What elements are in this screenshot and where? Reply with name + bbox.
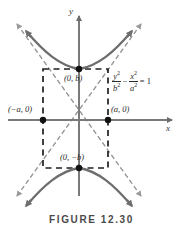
equation-den-b: b2 — [112, 82, 121, 93]
y-axis-label: y — [69, 7, 73, 16]
upper-branch-arrow-right — [127, 31, 132, 37]
hyperbola-equation: y2 b2 − x2 a2 = 1 — [112, 70, 152, 93]
equation-minus-operator: − — [123, 77, 128, 86]
label-vertex-bottom: (0, −b) — [60, 153, 84, 162]
hyperbola-plot: y x (0, b) (0, −b) (−a, 0) (a, 0) y2 b2 … — [0, 0, 183, 210]
label-box-right: (a, 0) — [111, 105, 129, 114]
point-vertex-top — [76, 66, 82, 72]
label-vertex-top: (0, b) — [64, 74, 82, 83]
equation-fraction-x: x2 a2 — [129, 70, 138, 93]
figure-container: y x (0, b) (0, −b) (−a, 0) (a, 0) y2 b2 … — [0, 0, 183, 237]
equation-num-x: x2 — [129, 70, 138, 82]
figure-caption: FIGURE 12.30 — [0, 214, 183, 225]
upper-branch-arrow-left — [26, 31, 31, 37]
equation-den-a: a2 — [129, 82, 138, 93]
point-vertex-bottom — [76, 165, 82, 171]
label-box-left: (−a, 0) — [8, 105, 32, 114]
equation-num-y: y2 — [112, 70, 121, 82]
lower-branch-arrow-left — [26, 200, 31, 206]
equation-num-x-exp: 2 — [134, 70, 137, 76]
equation-fraction-y: y2 b2 — [112, 70, 121, 93]
point-box-right — [105, 117, 111, 123]
equation-equals-one: = 1 — [140, 77, 151, 86]
x-axis-label: x — [166, 124, 170, 133]
equation-den-b-exp: 2 — [117, 82, 120, 88]
point-box-left — [40, 117, 46, 123]
lower-branch-arrow-right — [127, 200, 132, 206]
equation-num-y-exp: 2 — [117, 70, 120, 76]
equation-den-a-exp: 2 — [134, 82, 137, 88]
